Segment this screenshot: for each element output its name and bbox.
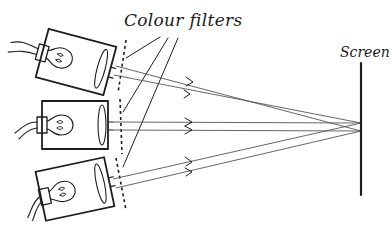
colour-filters xyxy=(116,40,126,210)
middle-lamp xyxy=(15,101,113,149)
light-beams xyxy=(113,66,361,188)
light-bulb-icon xyxy=(38,179,77,206)
bottom-lamp xyxy=(19,156,119,224)
top-lamp xyxy=(4,20,121,96)
power-cable xyxy=(15,122,37,133)
diagram-drawing xyxy=(0,0,392,233)
lamp-housing xyxy=(36,29,117,95)
diagram-canvas: Colour filters Screen xyxy=(0,0,392,233)
lens-icon xyxy=(98,105,106,145)
power-cable xyxy=(11,39,39,49)
middle-filter xyxy=(120,99,122,154)
label-pointers xyxy=(123,37,178,167)
bottom-filter xyxy=(116,158,126,210)
screen-label: Screen xyxy=(340,45,390,59)
arrowheads xyxy=(184,77,193,176)
colour-filters-label: Colour filters xyxy=(124,12,243,29)
